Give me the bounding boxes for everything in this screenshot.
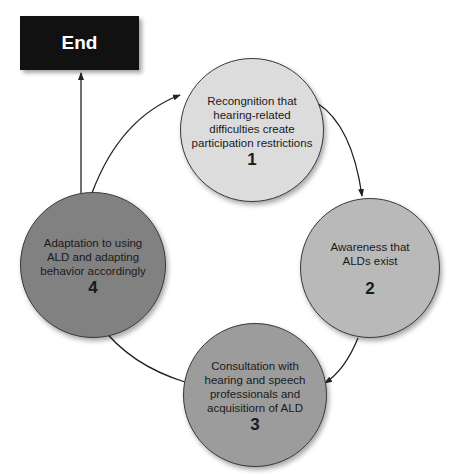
step-2-number: 2 [365, 282, 374, 296]
arrow-4-to-1 [92, 95, 180, 193]
step-3-label: Consultation with hearing and speech pro… [193, 359, 317, 415]
step-1-number: 1 [247, 153, 256, 167]
step-2-label: Awareness that ALDs exist [319, 240, 421, 268]
step-4-node: Adaptation to using ALD and adapting beh… [20, 192, 166, 338]
step-4-label: Adaptation to using ALD and adapting beh… [31, 236, 155, 278]
step-3-node: Consultation with hearing and speech pro… [183, 323, 327, 467]
step-3-number: 3 [250, 418, 259, 432]
end-box: End [20, 16, 139, 70]
step-1-node: Recongnition that hearing-related diffic… [180, 58, 324, 202]
step-2-node: Awareness that ALDs exist 2 [300, 198, 440, 338]
step-4-number: 4 [88, 281, 97, 295]
step-1-label: Recongnition that hearing-related diffic… [181, 94, 323, 150]
end-label: End [62, 32, 98, 54]
arrow-1-to-2 [317, 103, 362, 196]
arrow-2-to-3 [325, 338, 358, 383]
